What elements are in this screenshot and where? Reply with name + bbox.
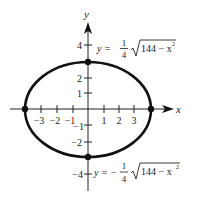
y-tick-label: 2 <box>77 73 82 84</box>
lower-equation: y = − 1 4 144 − x 2 <box>93 161 180 184</box>
y-tick-label: −1 <box>73 121 84 132</box>
x-tick-label: −3 <box>34 115 45 126</box>
svg-text:1: 1 <box>122 38 127 48</box>
y-tick-label: −4 <box>72 169 83 180</box>
y-tick-label: −2 <box>71 137 82 148</box>
x-axis-label: x <box>175 103 181 115</box>
svg-text:2: 2 <box>172 41 175 47</box>
ellipse-graph: x y −3 −2 −1 1 2 3 4 2 1 −1 −2 −4 y = 1 … <box>0 0 197 204</box>
svg-text:2: 2 <box>176 164 179 170</box>
svg-text:1: 1 <box>122 161 127 171</box>
svg-text:144 − x: 144 − x <box>141 166 172 177</box>
svg-text:4: 4 <box>122 174 127 184</box>
y-tick-label: 1 <box>77 88 82 99</box>
svg-text:4: 4 <box>122 50 127 60</box>
svg-text:y = −: y = − <box>93 167 117 178</box>
svg-text:y =: y = <box>96 43 111 54</box>
x-tick-label: 1 <box>102 115 107 126</box>
x-tick-label: 3 <box>132 115 137 126</box>
y-tick-label: 4 <box>77 40 82 51</box>
x-tick-label: 2 <box>117 115 122 126</box>
x-tick-label: −2 <box>50 115 61 126</box>
upper-equation: y = 1 4 144 − x 2 <box>96 38 176 60</box>
svg-text:144 − x: 144 − x <box>141 43 172 54</box>
y-axis-label: y <box>83 8 89 20</box>
